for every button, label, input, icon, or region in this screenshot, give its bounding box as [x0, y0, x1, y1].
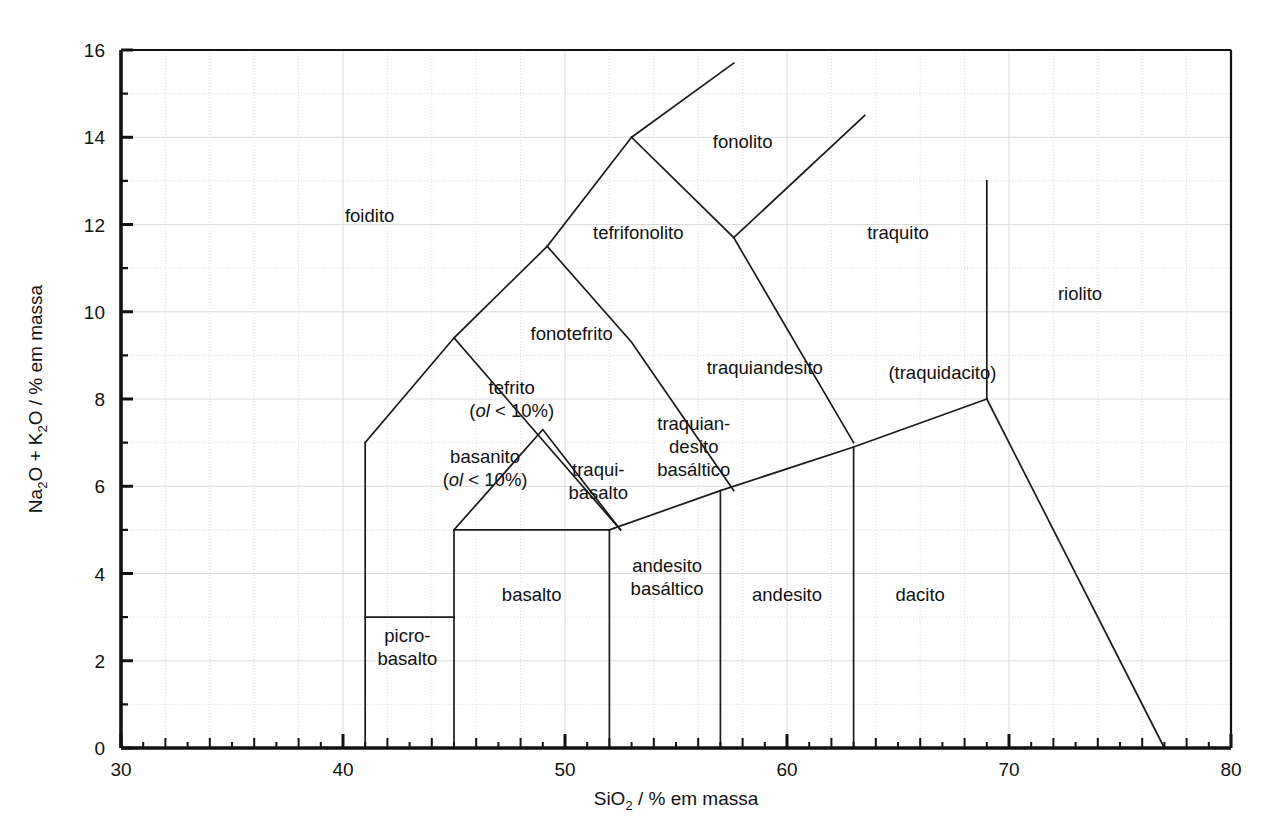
x-tick-label: 60 — [776, 759, 797, 780]
y-tick-label: 2 — [94, 651, 105, 672]
y-tick-label: 14 — [84, 127, 106, 148]
field-label-andesito: andesito — [752, 584, 822, 605]
field-label-tefrifonolito: tefrifonolito — [593, 222, 684, 243]
x-tick-label: 80 — [1220, 759, 1241, 780]
field-label-dacito: dacito — [896, 584, 945, 605]
tas-diagram-svg: 0246810121416304050607080 SiO2 / % em ma… — [0, 0, 1280, 836]
field-label-traquito: traquito — [867, 222, 929, 243]
y-tick-label: 0 — [94, 738, 105, 759]
field-label-traquidacito: (traquidacito) — [888, 362, 996, 383]
y-tick-label: 16 — [84, 40, 105, 61]
field-label-fonotefrito: fonotefrito — [531, 323, 613, 344]
tas-diagram-figure: 0246810121416304050607080 SiO2 / % em ma… — [0, 0, 1280, 836]
field-label-riolito: riolito — [1058, 283, 1102, 304]
x-tick-label: 70 — [998, 759, 1019, 780]
y-tick-label: 8 — [94, 389, 105, 410]
y-axis-title: Na2O + K2O / % em massa — [25, 284, 50, 513]
y-tick-label: 6 — [94, 476, 105, 497]
field-label-fonolito: fonolito — [713, 131, 773, 152]
y-tick-label: 12 — [84, 215, 105, 236]
x-tick-label: 50 — [554, 759, 575, 780]
field-label-basalto: basalto — [502, 584, 562, 605]
x-tick-label: 40 — [332, 759, 353, 780]
x-tick-label: 30 — [110, 759, 131, 780]
field-label-foidito: foidito — [345, 205, 394, 226]
field-label-traquiandesito: traquiandesito — [707, 357, 823, 378]
x-axis-title: SiO2 / % em massa — [594, 788, 759, 813]
y-tick-label: 4 — [94, 564, 105, 585]
y-tick-label: 10 — [84, 302, 105, 323]
